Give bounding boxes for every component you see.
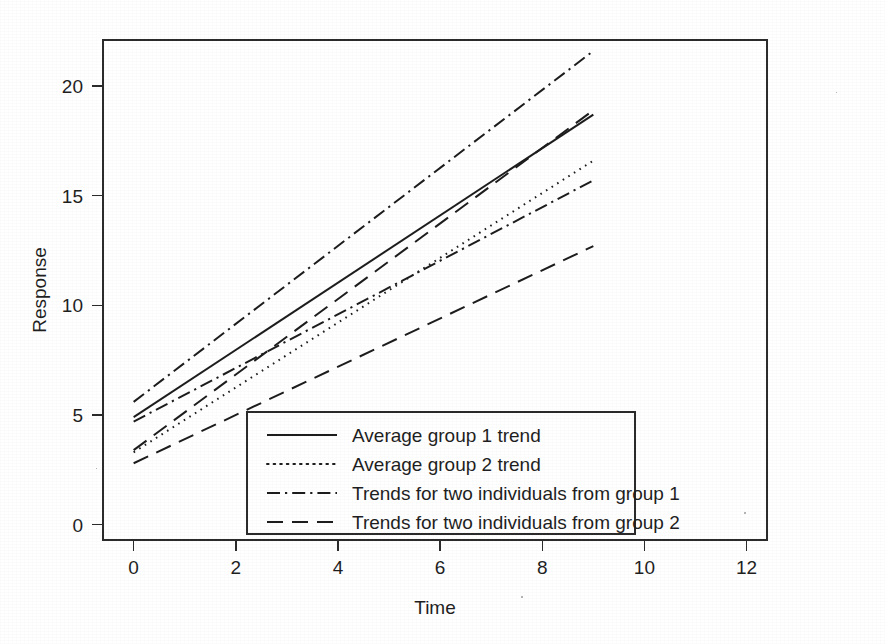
x-axis-title: Time xyxy=(414,597,456,618)
legend-label: Average group 1 trend xyxy=(352,425,541,446)
line-chart: 05101520 024681012 Response Time Average… xyxy=(0,0,885,644)
x-tick-label: 8 xyxy=(537,557,548,578)
x-tick-label: 12 xyxy=(736,557,757,578)
x-tick-label: 10 xyxy=(634,557,655,578)
y-tick-label: 15 xyxy=(62,186,83,207)
x-tick-label: 4 xyxy=(333,557,344,578)
series-line-individuals-group-1-2 xyxy=(134,51,594,402)
series-line-individuals-group-1-3 xyxy=(134,180,594,421)
x-axis-ticks: 024681012 xyxy=(128,540,757,578)
x-tick-label: 6 xyxy=(435,557,446,578)
legend-label: Trends for two individuals from group 1 xyxy=(352,483,680,504)
series-line-individuals-group-2-4 xyxy=(134,110,594,450)
chart-legend: Average group 1 trendAverage group 2 tre… xyxy=(247,412,680,534)
y-axis-ticks: 05101520 xyxy=(62,76,103,536)
y-tick-label: 20 xyxy=(62,76,83,97)
series-group xyxy=(134,51,594,463)
y-tick-label: 0 xyxy=(72,515,83,536)
x-tick-label: 0 xyxy=(128,557,139,578)
legend-label: Trends for two individuals from group 2 xyxy=(352,512,680,533)
y-tick-label: 10 xyxy=(62,295,83,316)
x-tick-label: 2 xyxy=(231,557,242,578)
y-tick-label: 5 xyxy=(72,405,83,426)
series-line-avg-group-2-1 xyxy=(134,161,594,453)
y-axis-title: Response xyxy=(29,247,50,333)
legend-label: Average group 2 trend xyxy=(352,454,541,475)
chart-figure: 05101520 024681012 Response Time Average… xyxy=(0,0,885,644)
